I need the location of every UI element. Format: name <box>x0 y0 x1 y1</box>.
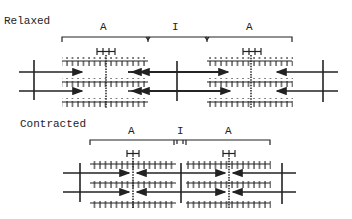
contracted-h-zone-right <box>223 150 235 157</box>
relaxed-h-zone-left <box>97 48 115 55</box>
contracted-panel <box>63 140 296 209</box>
relaxed-panel <box>19 37 338 108</box>
relaxed-h-zone-right <box>243 48 261 55</box>
contracted-h-zone-left <box>127 150 139 157</box>
contracted-i-bracket <box>174 140 186 145</box>
relaxed-a-bracket-right <box>207 37 292 42</box>
relaxed-a-bracket-left <box>62 37 148 42</box>
contracted-a-bracket-left <box>90 140 174 145</box>
sarcomere-diagram <box>0 0 352 219</box>
contracted-a-bracket-right <box>186 140 270 145</box>
